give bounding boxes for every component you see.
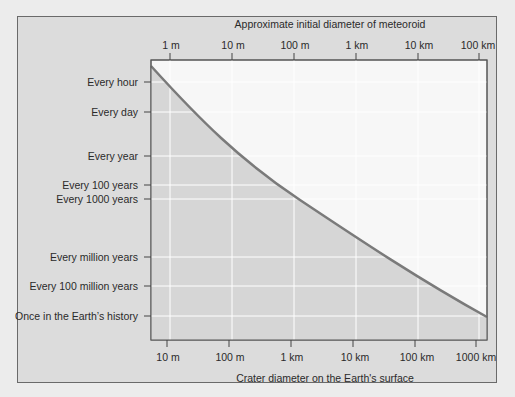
bottom-tick-label: 10 km bbox=[341, 351, 370, 363]
bottom-tick-label: 10 m bbox=[156, 351, 180, 363]
bottom-tick-label: 100 km bbox=[400, 351, 435, 363]
bottom-axis-ticks bbox=[167, 340, 476, 347]
top-tick-label: 10 km bbox=[405, 39, 434, 51]
top-axis-ticks bbox=[170, 53, 479, 60]
bottom-tick-label: 1 km bbox=[281, 351, 304, 363]
left-tick-label: Every hour bbox=[87, 76, 138, 88]
left-tick-label: Once in the Earth’s history bbox=[15, 310, 139, 322]
top-tick-label: 10 m bbox=[221, 39, 245, 51]
top-tick-label: 1 m bbox=[162, 39, 180, 51]
bottom-tick-label: 100 m bbox=[215, 351, 244, 363]
left-tick-label: Every 1000 years bbox=[56, 193, 138, 205]
left-tick-label: Every million years bbox=[50, 251, 138, 263]
bottom-tick-label: 1000 km bbox=[456, 351, 497, 363]
left-tick-label: Every day bbox=[91, 106, 138, 118]
top-tick-label: 100 km bbox=[461, 39, 496, 51]
left-axis-ticks bbox=[144, 82, 151, 316]
top-tick-label: 100 m bbox=[280, 39, 309, 51]
left-tick-label: Every 100 years bbox=[62, 179, 138, 191]
top-tick-label: 1 km bbox=[346, 39, 369, 51]
bottom-axis-title: Crater diameter on the Earth's surface bbox=[236, 372, 414, 384]
chart-svg: Approximate initial diameter of meteoroi… bbox=[0, 0, 515, 397]
left-tick-label: Every year bbox=[88, 150, 139, 162]
top-axis-title: Approximate initial diameter of meteoroi… bbox=[235, 18, 426, 30]
left-tick-label: Every 100 million years bbox=[29, 280, 138, 292]
